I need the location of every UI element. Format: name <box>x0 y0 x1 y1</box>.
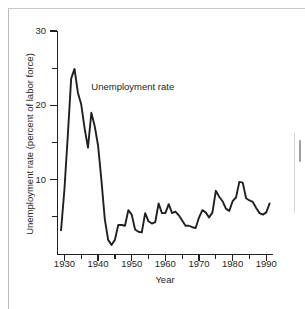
unemployment-rate-line <box>61 69 270 245</box>
series-annotation-label: Unemployment rate <box>91 81 174 92</box>
figure-page: 102030 1930194019501960197019801990 Unem… <box>0 0 305 309</box>
series-plot-area <box>0 0 305 309</box>
unemployment-rate-line-chart: 102030 1930194019501960197019801990 Unem… <box>0 0 305 309</box>
